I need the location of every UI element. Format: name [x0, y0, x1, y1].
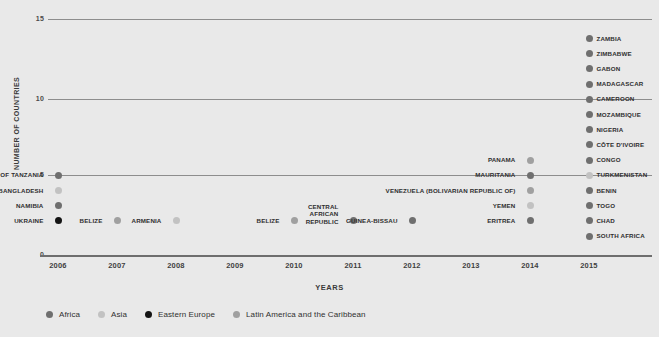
data-point-label: CHAD: [597, 217, 615, 224]
x-tick-2007: 2007: [97, 261, 137, 270]
data-point-label: MOZAMBIQUE: [597, 111, 641, 118]
data-point-label: CÔTE D'IVOIRE: [597, 141, 645, 148]
data-point-label: GABON: [597, 65, 621, 72]
data-point-label: BENIN: [597, 187, 617, 194]
data-point-label: UKRAINE: [14, 217, 43, 224]
x-tick-2011: 2011: [333, 261, 373, 270]
data-point-dot-icon: [586, 141, 593, 148]
legend-label: Asia: [111, 310, 127, 319]
data-point-label: UNITED REPUBLIC OF TANZANIA: [0, 171, 44, 178]
data-point-dot-icon: [527, 172, 534, 179]
chart-legend: Africa Asia Eastern Europe Latin America…: [46, 310, 384, 319]
gridline-10: [48, 99, 652, 100]
data-point-dot-icon: [586, 50, 593, 57]
data-point-dot-icon: [55, 172, 62, 179]
gridline-5: [48, 175, 652, 176]
data-point-dot-icon: [55, 202, 62, 209]
x-tick-2006: 2006: [38, 261, 78, 270]
data-point-label: NIGERIA: [597, 126, 624, 133]
data-point-label: TOGO: [597, 202, 616, 209]
data-point-dot-icon: [527, 157, 534, 164]
data-point-dot-icon: [586, 217, 593, 224]
legend-item-asia[interactable]: Asia: [98, 310, 127, 319]
data-point-label: CAMEROON: [597, 95, 635, 102]
legend-swatch-icon: [233, 311, 240, 318]
data-point-label: BELIZE: [257, 217, 280, 224]
data-point-dot-icon: [586, 202, 593, 209]
data-point-label: ERITREA: [487, 217, 515, 224]
data-point-label: ZAMBIA: [597, 35, 622, 42]
legend-swatch-icon: [46, 311, 53, 318]
data-point-dot-icon: [586, 65, 593, 72]
data-point-dot-icon: [586, 233, 593, 240]
data-point-dot-icon: [586, 96, 593, 103]
data-point-dot-icon: [586, 81, 593, 88]
x-tick-2008: 2008: [156, 261, 196, 270]
x-tick-2009: 2009: [215, 261, 255, 270]
data-point-label: MADAGASCAR: [597, 80, 644, 87]
data-point-dot-icon: [586, 35, 593, 42]
data-point-dot-icon: [527, 217, 534, 224]
data-point-label: BELIZE: [80, 217, 103, 224]
data-point-label: YEMEN: [493, 202, 516, 209]
x-tick-2014: 2014: [510, 261, 550, 270]
legend-label: Africa: [59, 310, 80, 319]
y-axis-title: NUMBER OF COUNTRIES: [13, 74, 20, 174]
data-point-dot-icon: [586, 172, 593, 179]
scatter-chart: NUMBER OF COUNTRIES 15 10 5 0 2006 2007 …: [0, 0, 659, 337]
data-point-dot-icon: [527, 202, 534, 209]
x-tick-2013: 2013: [451, 261, 491, 270]
data-point-label: NAMIBIA: [16, 202, 44, 209]
data-point-label: ZIMBABWE: [597, 50, 632, 57]
data-point-label: CENTRAL AFRICAN REPUBLIC: [305, 203, 339, 225]
data-point-dot-icon: [586, 111, 593, 118]
data-point-dot-icon: [586, 157, 593, 164]
x-tick-2010: 2010: [274, 261, 314, 270]
data-point-dot-icon: [291, 217, 298, 224]
data-point-label: CONGO: [597, 156, 621, 163]
legend-item-africa[interactable]: Africa: [46, 310, 80, 319]
x-tick-2012: 2012: [392, 261, 432, 270]
data-point-dot-icon: [586, 126, 593, 133]
data-point-label: MAURITANIA: [475, 171, 515, 178]
data-point-label: TURKMENISTAN: [597, 171, 648, 178]
data-point-dot-icon: [586, 187, 593, 194]
data-point-label: ARMENIA: [132, 217, 162, 224]
data-point-label: PANAMA: [488, 156, 516, 163]
y-tick-15: 15: [24, 15, 44, 22]
data-point-label: GUINEA-BISSAU: [346, 217, 397, 224]
gridline-15: [48, 19, 652, 20]
legend-swatch-icon: [145, 311, 152, 318]
legend-swatch-icon: [98, 311, 105, 318]
x-axis-title: YEARS: [0, 283, 659, 292]
data-point-label: SOUTH AFRICA: [597, 232, 645, 239]
x-axis-line: [40, 255, 652, 257]
data-point-dot-icon: [409, 217, 416, 224]
legend-label: Latin America and the Caribbean: [246, 310, 366, 319]
data-point-dot-icon: [55, 187, 62, 194]
y-tick-10: 10: [24, 95, 44, 102]
data-point-label: BANGLADESH: [0, 187, 44, 194]
legend-item-eastern-europe[interactable]: Eastern Europe: [145, 310, 215, 319]
data-point-label: VENEZUELA (BOLIVARIAN REPUBLIC OF): [386, 187, 516, 194]
data-point-dot-icon: [173, 217, 180, 224]
data-point-dot-icon: [114, 217, 121, 224]
data-point-dot-icon: [55, 217, 62, 224]
legend-item-latin-america[interactable]: Latin America and the Caribbean: [233, 310, 366, 319]
x-tick-2015: 2015: [569, 261, 609, 270]
legend-label: Eastern Europe: [158, 310, 215, 319]
data-point-dot-icon: [527, 187, 534, 194]
